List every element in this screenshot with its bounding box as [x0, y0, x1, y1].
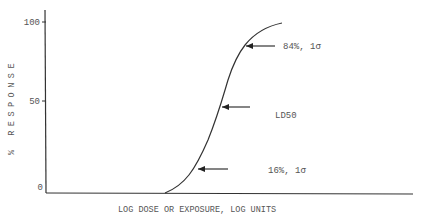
annotation-ld50: LD50 — [275, 111, 297, 121]
annotation-84: 84%, 1σ — [283, 42, 321, 52]
dose-response-chart: 100 50 0 % RESPONSE LOG DOSE OR EXPOSURE… — [0, 0, 422, 218]
arrow-84-icon — [246, 43, 275, 49]
y-axis-label: % RESPONSE — [7, 59, 17, 155]
x-axis — [46, 193, 413, 194]
arrow-50-icon — [222, 104, 250, 110]
dose-response-curve — [165, 23, 282, 193]
x-axis-label: LOG DOSE OR EXPOSURE, LOG UNITS — [118, 205, 276, 215]
y-tick-label-100: 100 — [24, 18, 40, 28]
y-tick-label-0: 0 — [38, 183, 43, 193]
arrow-16-icon — [198, 166, 228, 172]
annotation-16: 16%, 1σ — [268, 166, 306, 176]
y-tick-label-50: 50 — [29, 97, 40, 107]
